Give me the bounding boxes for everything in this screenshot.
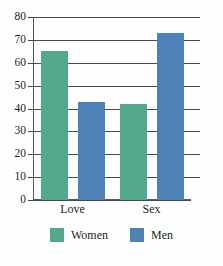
y-tick-label-20: 20 [15,149,27,161]
bar-men-love [78,102,105,200]
legend-entry-men: Men [130,228,173,242]
y-tick-right-50 [191,86,200,87]
y-tick-mark-10 [28,177,33,178]
gridline-0 [33,200,191,201]
y-tick-right-10 [191,177,200,178]
y-tick-mark-0 [28,200,33,201]
y-tick-mark-70 [28,40,33,41]
bars-layer [33,17,191,200]
y-tick-right-70 [191,40,200,41]
y-tick-mark-80 [28,17,33,18]
y-tick-right-20 [191,154,200,155]
bar-women-love [41,51,68,200]
y-tick-label-30: 30 [15,126,27,138]
y-tick-mark-50 [28,86,33,87]
legend-swatch-women-icon [50,228,64,242]
y-tick-right-40 [191,109,200,110]
y-tick-right-60 [191,63,200,64]
bar-chart-figure: 80706050403020100 LoveSex Women Men [0,0,223,266]
y-tick-mark-40 [28,109,33,110]
legend-entry-women: Women [50,228,108,242]
y-tick-right-30 [191,131,200,132]
y-tick-mark-20 [28,154,33,155]
y-tick-label-60: 60 [15,57,27,69]
plot-area: 80706050403020100 [33,17,191,200]
x-tick-label-love: Love [60,203,85,215]
y-tick-label-10: 10 [15,171,27,183]
legend-swatch-men-icon [130,228,144,242]
legend-label-women: Women [71,229,108,241]
y-tick-label-70: 70 [15,34,27,46]
bar-women-sex [120,104,147,200]
x-tick-label-sex: Sex [143,203,161,215]
y-tick-label-40: 40 [15,103,27,115]
y-tick-right-80 [191,17,200,18]
bar-men-sex [157,33,184,200]
y-tick-mark-60 [28,63,33,64]
y-tick-label-80: 80 [15,11,27,23]
legend-label-men: Men [151,229,173,241]
y-tick-label-50: 50 [15,80,27,92]
y-tick-mark-30 [28,131,33,132]
y-tick-label-0: 0 [20,194,26,206]
chart-legend: Women Men [0,228,223,242]
